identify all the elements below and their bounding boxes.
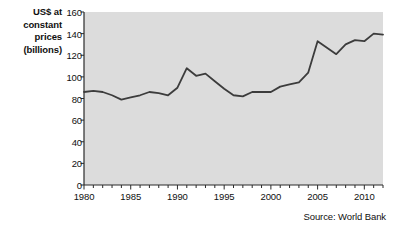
x-axis-tick-label: 2000: [261, 191, 282, 202]
x-axis-tick-labels: 1980198519901995200020052010: [0, 0, 400, 233]
x-axis-tick-label: 2010: [354, 191, 375, 202]
x-axis-tick-label: 1995: [214, 191, 235, 202]
x-axis-tick-label: 1985: [120, 191, 141, 202]
source-caption: Source: World Bank: [303, 211, 386, 222]
x-axis-tick-label: 1990: [167, 191, 188, 202]
chart-figure: US$ at constant prices (billions) 020406…: [0, 0, 400, 233]
x-axis-tick-label: 2005: [307, 191, 328, 202]
x-axis-tick-label: 1980: [74, 191, 95, 202]
